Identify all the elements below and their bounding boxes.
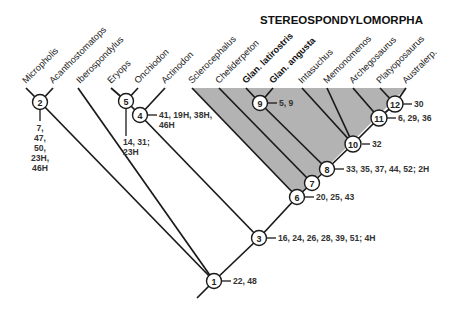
taxon-labels: Micropholis Acanthostomatops Iberospondy… [20,24,438,85]
taxon-eryops: Eryops [105,58,133,86]
node-6: 6 [290,190,305,205]
node-7: 7 [305,176,320,191]
svg-text:2: 2 [37,98,42,108]
node-6-characters: 20, 25, 43 [316,192,354,202]
node-11-characters: 6, 29, 36 [398,113,432,123]
svg-text:6: 6 [294,193,299,203]
svg-text:9: 9 [257,99,262,109]
node-2: 2 [33,95,48,110]
node-8: 8 [320,162,335,177]
svg-text:5: 5 [123,97,128,107]
node-4-characters-line2: 46H [159,120,175,130]
node-10: 10 [345,136,361,152]
node-2-characters-line2: 47, [34,133,46,143]
svg-text:8: 8 [324,165,329,175]
node-10-characters: 32 [372,139,382,149]
node-5-characters-line2: 23H [123,147,139,157]
clade-title: STEREOSPONDYLOMORPHA [260,14,423,26]
svg-text:4: 4 [137,111,142,121]
svg-text:11: 11 [374,114,384,124]
node-3: 3 [252,231,267,246]
node-11: 11 [371,110,387,126]
node-9: 9 [253,96,268,111]
taxon-archegosaurus: Archegosaurus [347,34,398,85]
svg-text:1: 1 [211,277,216,287]
node-5-characters-line1: 14, 31; [123,137,150,147]
node-9-characters: 5, 9 [279,98,294,108]
node-1-characters: 22, 48 [233,276,257,286]
node-2-characters-line1: 7, [36,123,43,133]
cladogram: STEREOSPONDYLOMORPHA Micropholis Acantho… [0,0,459,314]
node-5: 5 [119,94,134,109]
node-4-characters-line1: 41, 19H, 38H, [159,110,212,120]
node-8-characters: 33, 35, 37, 44, 52; 2H [346,164,429,174]
svg-text:10: 10 [348,140,358,150]
svg-text:12: 12 [390,100,400,110]
taxon-sclerocephalus: Sclerocephalus [186,34,238,86]
node-12: 12 [387,96,403,112]
svg-text:7: 7 [309,179,314,189]
node-1: 1 [207,274,222,289]
node-2-characters-line5: 46H [32,163,48,173]
node-2-characters-line4: 23H, [31,153,49,163]
node-2-characters-line3: 50, [34,143,46,153]
node-12-characters: 30 [414,99,424,109]
node-4: 4 [133,108,148,123]
node-3-characters: 16, 24, 26, 28, 39, 51; 4H [278,233,375,243]
svg-text:3: 3 [256,234,261,244]
